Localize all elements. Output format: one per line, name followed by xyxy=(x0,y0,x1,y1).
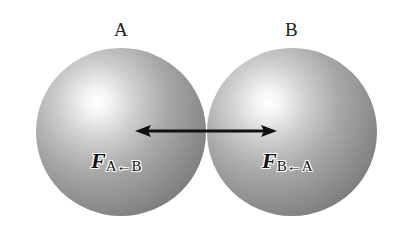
force-subscript: A←B xyxy=(106,158,142,174)
force-symbol: F xyxy=(262,148,277,173)
force-label-b-from-a: FB←A xyxy=(262,148,313,174)
force-symbol: F xyxy=(91,148,106,173)
force-subscript: B←A xyxy=(277,158,313,174)
force-label-a-from-b: FA←B xyxy=(91,148,142,174)
double-arrow-icon xyxy=(0,0,396,226)
